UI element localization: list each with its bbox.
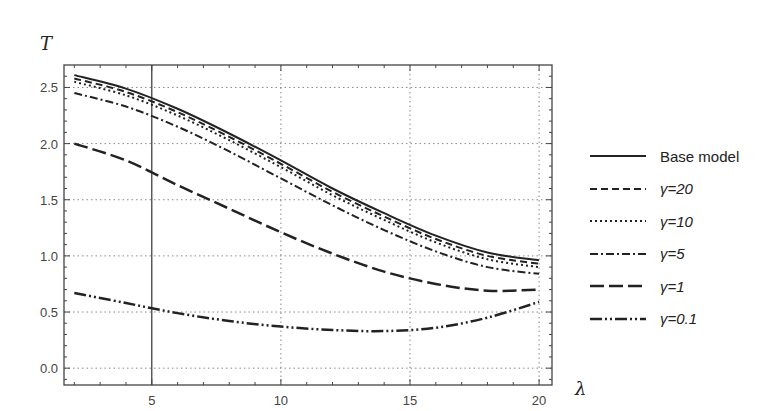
legend-item-gamma-20: γ=20	[590, 173, 780, 206]
series-line	[74, 144, 539, 291]
legend-label: γ=0.1	[660, 310, 697, 327]
legend-item-base: Base model	[590, 140, 780, 173]
legend-swatch-dashdotdot-icon	[590, 314, 646, 324]
legend-swatch-dotted-icon	[590, 216, 646, 226]
x-tick-label: 20	[532, 393, 546, 408]
series-line	[74, 75, 539, 260]
legend-item-gamma-10: γ=10	[590, 205, 780, 238]
y-tick-label: 1.5	[40, 193, 58, 208]
x-axis-label: λ	[574, 378, 586, 399]
grid-lines	[64, 65, 552, 385]
y-tick-label: 0.5	[40, 305, 58, 320]
x-tick-label: 10	[274, 393, 288, 408]
series-line	[74, 78, 539, 263]
axis-ticks: 51015200.00.51.01.52.02.5	[40, 65, 552, 408]
legend-swatch-solid-icon	[590, 151, 646, 161]
y-tick-label: 2.0	[40, 137, 58, 152]
legend-label: Base model	[660, 148, 739, 165]
x-tick-label: 15	[403, 393, 417, 408]
legend-swatch-longdash-icon	[590, 281, 646, 291]
legend-item-gamma-5: γ=5	[590, 238, 780, 271]
legend-swatch-dashdot-icon	[590, 249, 646, 259]
legend-swatch-dashed-icon	[590, 184, 646, 194]
x-tick-label: 5	[148, 393, 155, 408]
legend-item-gamma-1: γ=1	[590, 270, 780, 303]
legend-item-gamma-0-1: γ=0.1	[590, 303, 780, 336]
legend-label: γ=5	[660, 245, 685, 262]
y-axis-label: T	[40, 33, 54, 54]
plot-frame	[64, 65, 552, 385]
y-tick-label: 0.0	[40, 361, 58, 376]
legend: Base model γ=20 γ=10 γ=5 γ=1 γ=0.1	[590, 140, 780, 335]
y-tick-label: 2.5	[40, 80, 58, 95]
data-series	[74, 75, 539, 331]
y-tick-label: 1.0	[40, 249, 58, 264]
legend-label: γ=20	[660, 180, 693, 197]
legend-label: γ=10	[660, 213, 693, 230]
legend-label: γ=1	[660, 278, 685, 295]
